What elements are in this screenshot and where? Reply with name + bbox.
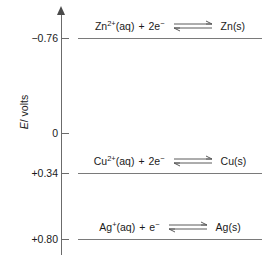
reactant-zinc-charge: 2+	[107, 19, 116, 28]
tick-label-1: 0	[2, 127, 58, 139]
product-silver: Ag(s)	[216, 221, 241, 233]
y-axis-label-units: / volts	[18, 95, 30, 122]
product-zinc-state: (s)	[233, 20, 245, 32]
electrons-copper-count: 2e	[149, 155, 161, 167]
product-zinc: Zn(s)	[221, 20, 246, 32]
reactant-copper-charge: 2+	[107, 154, 116, 163]
level-line-zinc	[78, 38, 262, 39]
electrons-copper: 2e−	[149, 155, 165, 167]
tick-label-0: −0.76	[2, 32, 58, 44]
tick-mark-1	[62, 133, 69, 134]
reactant-silver: Ag+(aq)	[99, 221, 135, 233]
product-silver-symbol: Ag	[216, 221, 229, 233]
equilibrium-arrow-icon	[167, 221, 209, 233]
electrons-zinc: 2e−	[149, 20, 165, 32]
product-copper: Cu(s)	[221, 155, 247, 167]
plus-sign-zinc: +	[138, 20, 144, 32]
tick-label-2: +0.34	[2, 167, 58, 179]
electrons-zinc-count: 2e	[149, 20, 161, 32]
tick-mark-3	[62, 239, 69, 240]
reaction-zinc: Zn2+(aq) + 2e− Zn(s)	[78, 18, 262, 34]
product-copper-state: (s)	[234, 155, 246, 167]
reaction-copper: Cu2+(aq) + 2e− Cu(s)	[78, 153, 262, 169]
reactant-zinc: Zn2+(aq)	[95, 20, 135, 32]
product-zinc-symbol: Zn	[221, 20, 233, 32]
equilibrium-arrow-icon	[172, 20, 214, 32]
reactant-zinc-state: (aq)	[116, 20, 135, 32]
electrons-silver-charge: −	[155, 220, 159, 229]
reactant-copper-state: (aq)	[116, 155, 135, 167]
tick-mark-0	[62, 38, 69, 39]
reactant-zinc-symbol: Zn	[95, 20, 107, 32]
level-line-silver	[78, 239, 262, 240]
product-copper-symbol: Cu	[221, 155, 234, 167]
reactant-silver-state: (aq)	[117, 221, 136, 233]
reactant-silver-symbol: Ag	[99, 221, 112, 233]
level-line-copper	[78, 173, 262, 174]
electrons-copper-charge: −	[160, 154, 164, 163]
equilibrium-arrow-icon	[172, 155, 214, 167]
tick-label-3: +0.80	[2, 233, 58, 245]
reaction-silver: Ag+(aq) + e− Ag(s)	[78, 219, 262, 235]
electrons-zinc-charge: −	[160, 19, 164, 28]
plus-sign-copper: +	[138, 155, 144, 167]
reactant-copper-symbol: Cu	[94, 155, 107, 167]
axis-arrow-up-icon	[57, 6, 65, 15]
electrons-silver: e−	[149, 221, 159, 233]
tick-mark-2	[62, 173, 69, 174]
plus-sign-silver: +	[139, 221, 145, 233]
product-silver-state: (s)	[228, 221, 240, 233]
reactant-copper: Cu2+(aq)	[94, 155, 135, 167]
y-axis-line	[61, 14, 62, 255]
electrode-potential-diagram: E/ volts −0.76 0 +0.34 +0.80 Zn2+(aq) + …	[0, 0, 269, 262]
